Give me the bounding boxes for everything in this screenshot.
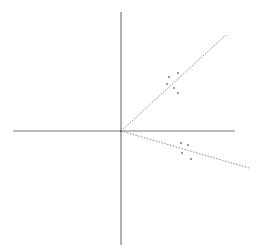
data-point xyxy=(173,87,175,89)
diagram-background xyxy=(0,0,260,252)
vector-diagram xyxy=(0,0,260,252)
data-point xyxy=(168,76,170,78)
data-point xyxy=(166,83,168,85)
data-point xyxy=(177,72,179,74)
data-point xyxy=(187,144,189,146)
data-point xyxy=(181,152,183,154)
data-point xyxy=(180,142,182,144)
data-point xyxy=(177,92,179,94)
data-point xyxy=(190,158,192,160)
